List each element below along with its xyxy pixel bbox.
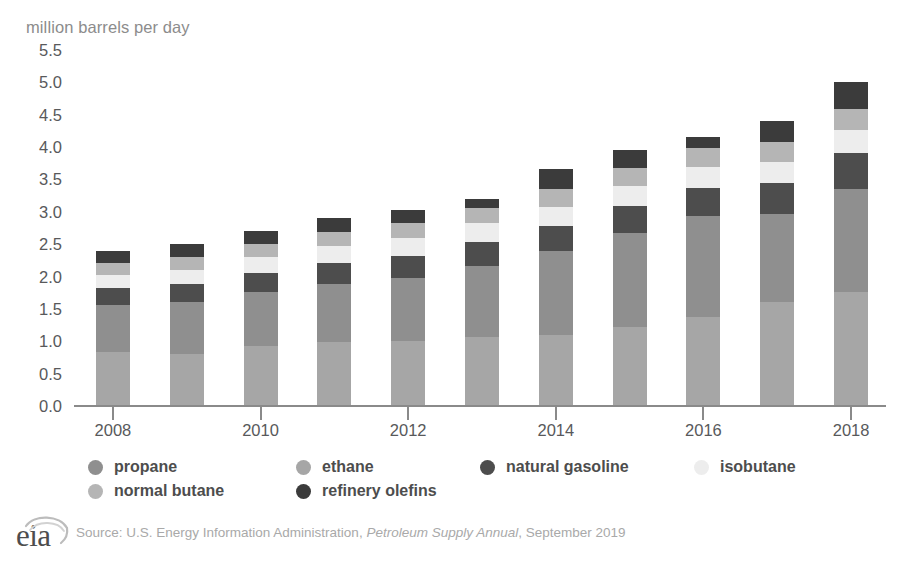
bar-group-2009[interactable] — [170, 50, 204, 406]
bar-segment-isobutane — [465, 223, 499, 242]
x-axis-tick-mark-2008 — [112, 407, 114, 420]
stacked-bar — [170, 244, 204, 406]
x-axis-tick-label-2014: 2014 — [537, 421, 574, 440]
bar-group-2013[interactable] — [465, 50, 499, 406]
bar-segment-isobutane — [760, 162, 794, 183]
legend-item-propane[interactable]: propane — [88, 458, 177, 476]
x-axis-tick-label-2012: 2012 — [390, 421, 427, 440]
bar-segment-refinery-olefins — [244, 231, 278, 243]
y-axis-tick-labels: 5.55.04.54.03.53.02.52.01.51.00.50.0 — [0, 50, 62, 406]
bar-segment-natural-gasoline — [244, 273, 278, 292]
y-axis-tick-2-5: 2.5 — [39, 235, 62, 254]
bar-segment-normal-butane — [244, 244, 278, 258]
bar-segment-propane — [539, 251, 573, 335]
bar-segment-normal-butane — [834, 109, 868, 130]
bar-segment-normal-butane — [391, 223, 425, 238]
bar-segment-normal-butane — [96, 263, 130, 275]
bar-segment-normal-butane — [317, 232, 351, 246]
legend-item-isobutane[interactable]: isobutane — [694, 458, 796, 476]
chart-footer: eia Source: U.S. Energy Information Admi… — [14, 512, 904, 556]
bar-group-2016[interactable] — [686, 50, 720, 406]
bar-segment-isobutane — [96, 275, 130, 288]
bar-group-2017[interactable] — [760, 50, 794, 406]
source-suffix: , September 2019 — [518, 525, 625, 540]
x-axis-tick-label-2018: 2018 — [833, 421, 870, 440]
legend-item-ethane[interactable]: ethane — [296, 458, 374, 476]
bar-segment-refinery-olefins — [391, 210, 425, 224]
bar-segment-ethane — [391, 341, 425, 406]
x-axis: 200820102012201420162018 — [74, 405, 886, 451]
bar-segment-propane — [834, 189, 868, 292]
legend-item-natural-gasoline[interactable]: natural gasoline — [480, 458, 629, 476]
source-citation: Source: U.S. Energy Information Administ… — [76, 525, 626, 540]
bar-segment-ethane — [686, 317, 720, 406]
bar-segment-normal-butane — [539, 189, 573, 206]
x-axis-tick-mark-2012 — [407, 407, 409, 420]
bar-segment-natural-gasoline — [96, 288, 130, 305]
bar-segment-refinery-olefins — [465, 199, 499, 208]
legend-label: refinery olefins — [322, 482, 437, 500]
bar-segment-propane — [465, 266, 499, 337]
bar-segment-propane — [244, 292, 278, 346]
bar-group-2012[interactable] — [391, 50, 425, 406]
bar-segment-propane — [391, 278, 425, 341]
source-prefix: Source: U.S. Energy Information Administ… — [76, 525, 366, 540]
stacked-bar — [686, 137, 720, 406]
stacked-bar — [96, 251, 130, 406]
bar-group-2011[interactable] — [317, 50, 351, 406]
legend-label: isobutane — [720, 458, 796, 476]
y-axis-tick-3-5: 3.5 — [39, 170, 62, 189]
bar-segment-ethane — [834, 292, 868, 406]
bar-segment-refinery-olefins — [96, 251, 130, 263]
bar-segment-natural-gasoline — [317, 263, 351, 284]
bar-segment-isobutane — [539, 207, 573, 226]
x-axis-tick-mark-2010 — [260, 407, 262, 420]
bar-group-2008[interactable] — [96, 50, 130, 406]
x-axis-tick-label-2010: 2010 — [242, 421, 279, 440]
stacked-bar — [834, 82, 868, 406]
y-axis-tick-4-0: 4.0 — [39, 138, 62, 157]
bar-segment-isobutane — [613, 186, 647, 206]
bar-segment-natural-gasoline — [760, 183, 794, 214]
legend-swatch-normal-butane-icon — [88, 484, 103, 499]
y-axis-tick-0-5: 0.5 — [39, 364, 62, 383]
bar-segment-ethane — [760, 302, 794, 406]
x-axis-tick-mark-2016 — [702, 407, 704, 420]
stacked-bar — [317, 218, 351, 406]
legend-label: normal butane — [114, 482, 224, 500]
y-axis-tick-4-5: 4.5 — [39, 105, 62, 124]
legend-item-normal-butane[interactable]: normal butane — [88, 482, 224, 500]
legend-swatch-refinery-olefins-icon — [296, 484, 311, 499]
bar-segment-ethane — [96, 352, 130, 406]
bar-segment-natural-gasoline — [170, 284, 204, 302]
bar-segment-refinery-olefins — [834, 82, 868, 109]
bar-segment-refinery-olefins — [613, 150, 647, 167]
bar-segment-isobutane — [244, 257, 278, 273]
legend-item-refinery-olefins[interactable]: refinery olefins — [296, 482, 437, 500]
bar-group-2015[interactable] — [613, 50, 647, 406]
bar-segment-natural-gasoline — [613, 206, 647, 233]
bar-segment-natural-gasoline — [834, 153, 868, 189]
y-axis-tick-3-0: 3.0 — [39, 202, 62, 221]
stacked-bar — [244, 231, 278, 406]
chart-plot-area — [74, 50, 886, 406]
y-axis-title: million barrels per day — [26, 18, 190, 37]
eia-swoosh-icon — [14, 514, 76, 550]
bar-segment-normal-butane — [760, 142, 794, 162]
bar-segment-propane — [96, 305, 130, 352]
legend-swatch-propane-icon — [88, 460, 103, 475]
bar-group-2014[interactable] — [539, 50, 573, 406]
bar-segment-ethane — [244, 346, 278, 406]
stacked-bar — [465, 199, 499, 406]
stacked-bar — [539, 169, 573, 406]
bar-segment-propane — [686, 216, 720, 316]
bar-segment-refinery-olefins — [317, 218, 351, 232]
bar-segment-refinery-olefins — [760, 121, 794, 142]
bar-segment-propane — [170, 302, 204, 354]
bar-segment-natural-gasoline — [391, 256, 425, 278]
chart-legend: propaneethanenatural gasolineisobutaneno… — [74, 458, 894, 506]
bar-segment-natural-gasoline — [686, 188, 720, 216]
legend-swatch-ethane-icon — [296, 460, 311, 475]
bar-group-2018[interactable] — [834, 50, 868, 406]
bar-group-2010[interactable] — [244, 50, 278, 406]
